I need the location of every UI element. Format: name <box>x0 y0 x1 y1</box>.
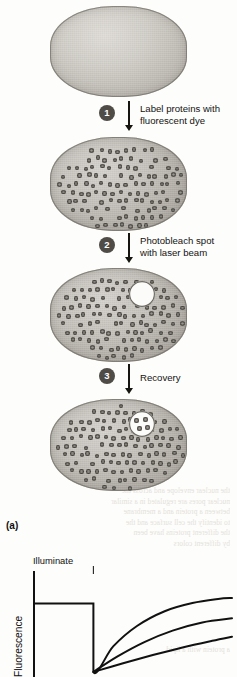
scan-showthrough-top: the nuclear envelope and across the nucl… <box>8 486 230 550</box>
fluorescence-recovery-chart: Illuminate Fluorescence <box>0 555 237 677</box>
step-1: 1 Label proteins with fluorescent dye <box>0 101 237 135</box>
cell-shape <box>50 137 187 231</box>
cell-membrane <box>50 399 187 491</box>
illuminate-annotation-label: Illuminate <box>33 555 73 566</box>
step-1-arrow-icon <box>128 101 130 132</box>
chart-y-axis-label: Fluorescence <box>13 616 24 677</box>
step-1-label: Label proteins with fluorescent dye <box>140 103 236 126</box>
cell-shape <box>50 268 187 362</box>
step-3-badge: 3 <box>99 368 115 384</box>
step-3-label: Recovery <box>140 372 236 384</box>
step-2: 2 Photobleach spot with laser beam <box>0 233 237 267</box>
step-3-arrow-icon <box>128 364 130 395</box>
cell-stage-recovered <box>0 399 237 491</box>
panel-label-a: (a) <box>6 520 18 531</box>
cell-stage-bleached <box>0 268 237 362</box>
cell-membrane <box>50 137 187 231</box>
cell-shape <box>50 6 187 97</box>
cell-membrane <box>50 268 187 362</box>
step-2-arrow-icon <box>128 233 130 264</box>
chart-series-group <box>34 598 232 673</box>
chart-plot-area <box>0 555 237 677</box>
cell-stage-unlabeled <box>0 6 237 97</box>
chart-series-high-mobile-fraction <box>34 598 232 673</box>
cell-shape <box>50 399 187 491</box>
chart-series-low-mobile-fraction <box>93 637 232 672</box>
cell-membrane <box>50 6 187 97</box>
step-2-label: Photobleach spot with laser beam <box>140 235 236 258</box>
step-2-badge: 2 <box>99 237 115 253</box>
cell-stage-labeled <box>0 137 237 231</box>
step-1-badge: 1 <box>99 105 115 121</box>
step-3: 3 Recovery <box>0 364 237 398</box>
